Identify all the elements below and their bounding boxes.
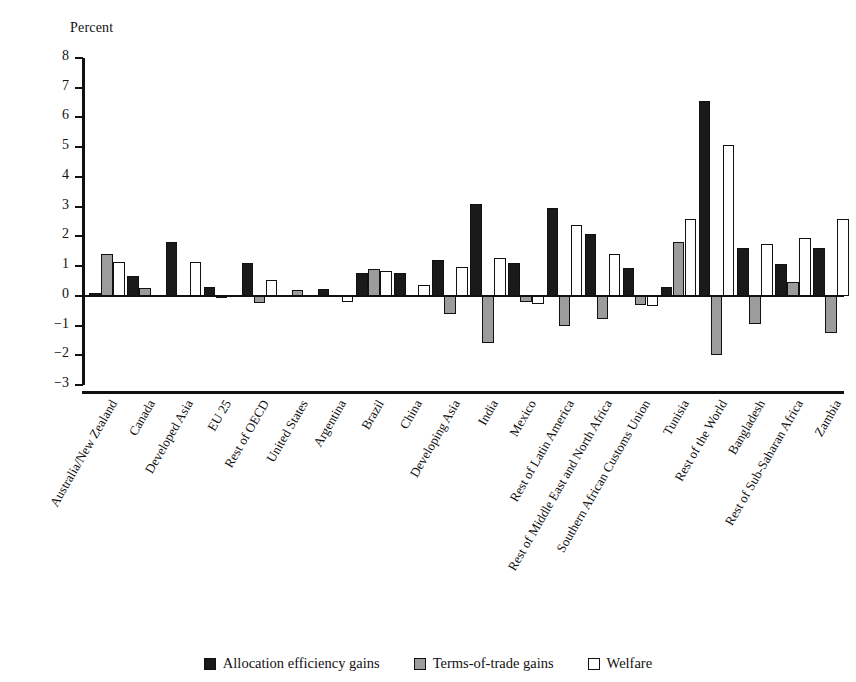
bar-group [775,58,811,385]
category-label: Rest of Sub-Saharan Africa [722,397,807,529]
bar-tot [787,282,799,295]
legend-item[interactable]: Allocation efficiency gains [204,655,380,672]
y-tick: 1 [75,265,83,267]
category-label: EU 25 [205,397,236,434]
bar-alloc [775,264,787,296]
bar-alloc [318,289,330,296]
bar-wel [609,254,621,296]
bar-group [699,58,735,385]
y-tick-label: 7 [62,78,69,94]
bar-tot [711,296,723,355]
y-tick-label: 5 [62,137,69,153]
category-label: Australia/New Zealand [47,397,121,510]
bar-group [508,58,544,385]
bar-tot [101,254,113,296]
bar-alloc [508,263,520,296]
axis-bottom-rule [82,391,844,394]
bar-wel [494,258,506,296]
bar-wel [647,296,659,306]
bar-group [470,58,506,385]
legend-label: Allocation efficiency gains [223,655,380,672]
y-tick: 8 [75,57,83,59]
bar-alloc [432,260,444,296]
y-tick: −1 [75,325,83,327]
bar-group [394,58,430,385]
legend-swatch-wel [588,658,600,670]
bar-group [737,58,773,385]
y-tick-label: 1 [62,256,69,272]
y-tick-label: 6 [62,107,69,123]
bar-group [356,58,392,385]
legend-label: Terms-of-trade gains [433,655,554,672]
bar-wel [190,262,202,296]
bar-group [547,58,583,385]
y-tick-label: −3 [54,375,69,391]
bar-tot [292,290,304,295]
bar-tot [749,296,761,324]
legend-item[interactable]: Welfare [588,655,653,672]
legend-swatch-alloc [204,658,216,670]
bar-alloc [356,273,368,296]
bar-tot [216,296,228,299]
bar-wel [723,145,735,296]
bar-wel [837,219,849,295]
bar-alloc [127,276,139,295]
bar-alloc [242,263,254,296]
bar-group [318,58,354,385]
chart-legend: Allocation efficiency gainsTerms-of-trad… [0,655,856,672]
bar-alloc [89,293,101,296]
bar-alloc [661,287,673,296]
bar-tot [635,296,647,306]
bar-wel [342,296,354,302]
bar-tot [482,296,494,344]
bar-alloc [547,208,559,296]
bar-wel [266,280,278,296]
y-tick-label: 0 [62,286,69,302]
bar-alloc [699,101,711,296]
y-tick: −2 [75,354,83,356]
y-tick-label: 8 [62,48,69,64]
category-label: China [396,397,425,432]
bar-group [623,58,659,385]
category-label: Canada [126,397,159,439]
bar-tot [139,288,151,295]
bar-alloc [623,268,635,296]
y-tick: 6 [75,116,83,118]
bar-tot [444,296,456,314]
y-tick: 5 [75,146,83,148]
bar-wel [532,296,544,304]
bar-wel [456,267,468,296]
y-tick: 3 [75,206,83,208]
bar-tot [520,296,532,303]
bar-tot [825,296,837,333]
bar-wel [571,225,583,296]
bar-group [89,58,125,385]
bar-tot [597,296,609,319]
bar-group [127,58,163,385]
bar-group [661,58,697,385]
category-label: Mexico [506,397,540,439]
bar-group [585,58,621,385]
bar-group [166,58,202,385]
bar-group [242,58,278,385]
bar-group [204,58,240,385]
chart-root: Percent 876543210−1−2−3 Australia/New Ze… [0,0,856,682]
bar-wel [113,262,125,296]
bar-alloc [813,248,825,296]
legend-swatch-tot [414,658,426,670]
y-axis-title: Percent [70,20,113,36]
bar-alloc [394,273,406,296]
y-tick-label: 3 [62,197,69,213]
y-tick: 2 [75,235,83,237]
bar-alloc [204,287,216,295]
bar-wel [799,238,811,296]
category-label: Zambia [811,397,845,439]
category-label: Tunisia [659,397,692,438]
bar-wel [761,244,773,295]
legend-item[interactable]: Terms-of-trade gains [414,655,554,672]
bar-alloc [166,242,178,296]
y-tick-label: −1 [54,316,69,332]
bar-group [280,58,316,385]
y-tick-label: 4 [62,167,69,183]
bar-alloc [585,234,597,296]
